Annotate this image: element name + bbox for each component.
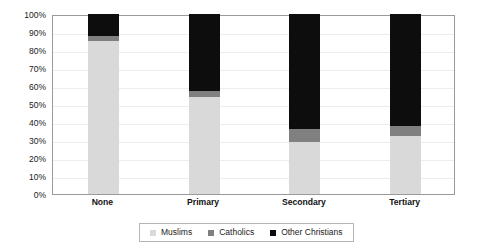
x-tick-label: Primary xyxy=(187,197,219,207)
y-tick-label: 60% xyxy=(29,83,46,92)
legend-label: Catholics xyxy=(219,228,254,237)
y-tick-label: 10% xyxy=(29,173,46,182)
plot-area xyxy=(52,15,455,195)
y-tick-label: 90% xyxy=(29,29,46,38)
legend-swatch-icon xyxy=(270,230,276,236)
y-tick-label: 0% xyxy=(34,191,46,200)
bar-column xyxy=(390,14,421,194)
bar-column xyxy=(289,14,320,194)
y-tick-label: 40% xyxy=(29,119,46,128)
bar-segment xyxy=(289,129,320,142)
legend: MuslimsCatholicsOther Christians xyxy=(139,223,354,242)
bar-segment xyxy=(88,41,119,194)
x-axis: NonePrimarySecondaryTertiary xyxy=(52,196,455,212)
bar-segment xyxy=(189,14,220,91)
y-tick-label: 100% xyxy=(24,11,46,20)
y-tick-label: 80% xyxy=(29,47,46,56)
bar-column xyxy=(88,14,119,194)
x-tick-label: None xyxy=(92,197,113,207)
legend-entry: Catholics xyxy=(208,228,254,237)
bar-column xyxy=(189,14,220,194)
legend-label: Other Christians xyxy=(281,228,342,237)
stacked-bar-chart: 100%90%80%70%60%50%40%30%20%10%0% NonePr… xyxy=(0,0,479,251)
y-axis: 100%90%80%70%60%50%40%30%20%10%0% xyxy=(0,0,50,210)
bar-segment xyxy=(289,14,320,129)
legend-entry: Muslims xyxy=(150,228,192,237)
y-tick-label: 30% xyxy=(29,137,46,146)
bar-segment xyxy=(189,97,220,194)
bar-segment xyxy=(390,126,421,137)
bar-segment xyxy=(88,14,119,36)
x-tick-label: Secondary xyxy=(282,197,326,207)
legend-label: Muslims xyxy=(161,228,192,237)
x-tick-label: Tertiary xyxy=(389,197,420,207)
bar-segment xyxy=(289,142,320,194)
bars-layer xyxy=(53,16,454,194)
legend-entry: Other Christians xyxy=(270,228,342,237)
legend-swatch-icon xyxy=(208,230,214,236)
legend-swatch-icon xyxy=(150,230,156,236)
bar-segment xyxy=(390,136,421,194)
y-tick-label: 70% xyxy=(29,65,46,74)
bar-segment xyxy=(390,14,421,126)
y-tick-label: 20% xyxy=(29,155,46,164)
y-tick-label: 50% xyxy=(29,101,46,110)
